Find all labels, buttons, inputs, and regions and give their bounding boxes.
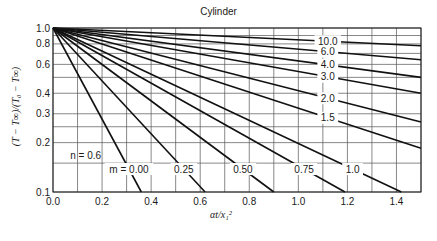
- x-tick-label: 1.0: [291, 196, 305, 207]
- x-tick-label: 0.8: [242, 196, 256, 207]
- y-tick-label: 0.6: [36, 59, 50, 70]
- series-label: 1.5: [321, 112, 335, 123]
- series-label: 0.50: [233, 164, 253, 175]
- x-tick-label: 0.4: [144, 196, 158, 207]
- series-line: [53, 28, 421, 46]
- series-line: [53, 28, 421, 122]
- n-annotation: n = 0.6: [70, 150, 101, 161]
- x-tick-label: 0.0: [46, 196, 60, 207]
- series-label: 10.0: [318, 36, 338, 47]
- y-tick-label: 0.1: [36, 187, 50, 198]
- y-axis-label: (T − T∞)/(T₀ − T∞): [10, 37, 21, 177]
- y-tick-label: 0.4: [36, 88, 50, 99]
- series-label: 4.0: [321, 59, 335, 70]
- x-tick-label: 0.6: [193, 196, 207, 207]
- series-line: [53, 28, 421, 93]
- x-tick-label: 1.4: [390, 196, 404, 207]
- x-tick-label: 0.2: [95, 196, 109, 207]
- x-tick-label: 1.2: [340, 196, 354, 207]
- y-tick-label: 0.8: [36, 38, 50, 49]
- series-label: 6.0: [321, 46, 335, 57]
- plot-area: 0.00.20.40.60.81.01.21.40.10.20.30.40.60…: [0, 0, 437, 241]
- chart-container: Cylinder 0.00.20.40.60.81.01.21.40.10.20…: [0, 0, 437, 241]
- chart-title: Cylinder: [0, 6, 437, 17]
- series-label: 2.0: [321, 93, 335, 104]
- series-label: 0.25: [174, 164, 194, 175]
- series-label: m = 0.00: [109, 164, 149, 175]
- series-label: 1.0: [346, 164, 360, 175]
- y-tick-label: 0.3: [36, 108, 50, 119]
- y-tick-label: 0.2: [36, 137, 50, 148]
- series-label: 0.75: [294, 164, 314, 175]
- y-tick-label: 1.0: [36, 23, 50, 34]
- x-axis-label: αt/x₁²: [210, 209, 232, 220]
- series-label: 3.0: [321, 71, 335, 82]
